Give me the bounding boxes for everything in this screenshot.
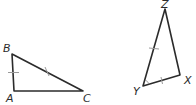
vertex-label-a: A [5, 92, 14, 105]
vertex-label-b: B [3, 42, 11, 55]
vertex-label-x: X [183, 74, 192, 87]
tick-mark-zy [149, 48, 159, 49]
diagram-canvas: B A C Z Y X [0, 0, 196, 105]
vertex-label-z: Z [160, 0, 169, 11]
vertex-label-c: C [83, 92, 91, 105]
triangle-abc: B A C [3, 42, 91, 105]
vertex-label-y: Y [133, 85, 141, 98]
triangle-xyz: Z Y X [133, 0, 192, 98]
triangle-xyz-outline [143, 9, 180, 86]
angle-mark-y [145, 80, 149, 84]
